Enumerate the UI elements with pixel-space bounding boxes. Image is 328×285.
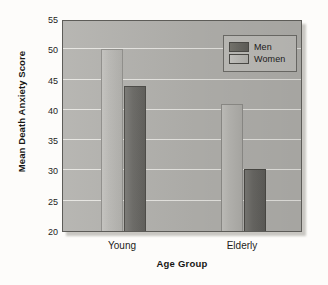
legend-swatch-women-icon — [229, 54, 249, 64]
chart-figure: Mean Death Anxiety Score 202530354045505… — [0, 0, 328, 285]
bar-young-women — [101, 49, 123, 231]
gridline — [63, 79, 301, 80]
legend-item-women: Women — [229, 54, 291, 64]
y-axis-tick-label: 35 — [14, 136, 58, 146]
legend-swatch-men-icon — [229, 42, 249, 52]
bar-young-men — [124, 86, 146, 231]
y-axis-tick-label: 45 — [14, 76, 58, 86]
legend-label-women: Women — [254, 54, 285, 64]
y-axis-tick-labels: 2025303540455055 — [12, 20, 58, 232]
y-axis-tick-label: 25 — [14, 197, 58, 207]
plot-area: Men Women — [62, 20, 302, 232]
legend-label-men: Men — [254, 42, 272, 52]
x-axis-tick-label-elderly: Elderly — [202, 240, 282, 251]
legend-item-men: Men — [229, 42, 291, 52]
bar-elderly-men — [244, 169, 266, 231]
gridline — [63, 139, 301, 140]
x-axis-tick-label-young: Young — [82, 240, 162, 251]
gridline — [63, 109, 301, 110]
y-axis-tick-label: 55 — [14, 15, 58, 25]
chart-legend: Men Women — [223, 35, 297, 72]
x-axis-title: Age Group — [62, 258, 302, 269]
y-axis-tick-label: 20 — [14, 227, 58, 237]
y-axis-tick-label: 40 — [14, 106, 58, 116]
y-axis-tick-label: 50 — [14, 45, 58, 55]
y-axis-tick-label: 30 — [14, 166, 58, 176]
bar-elderly-women — [221, 104, 243, 231]
